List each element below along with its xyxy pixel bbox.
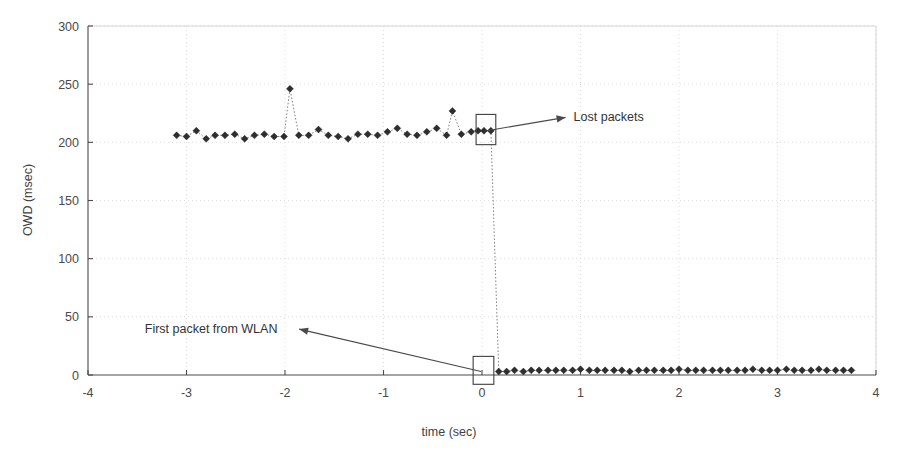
owd-vs-time-scatter-chart: 050100150200250300-4-3-2-101234 Lost pac… xyxy=(0,0,899,458)
y-axis-tick-label: 300 xyxy=(58,20,79,34)
x-axis-tick-label: 2 xyxy=(676,386,683,400)
x-axis-tick-label: 1 xyxy=(577,386,584,400)
x-axis-tick-label: 4 xyxy=(873,386,880,400)
y-axis-tick-label: 100 xyxy=(58,252,79,266)
x-axis-tick-label: 3 xyxy=(774,386,781,400)
y-axis-tick-label: 50 xyxy=(65,310,79,324)
y-axis-tick-label: 250 xyxy=(58,78,79,92)
annotation-label: First packet from WLAN xyxy=(145,322,278,336)
x-axis-tick-label: -3 xyxy=(181,386,192,400)
y-axis-title: OWD (msec) xyxy=(21,164,35,236)
x-axis-title: time (sec) xyxy=(422,425,477,439)
chart-figure: 050100150200250300-4-3-2-101234 Lost pac… xyxy=(0,0,899,458)
y-axis-tick-label: 150 xyxy=(58,194,79,208)
x-axis-tick-label: 0 xyxy=(479,386,486,400)
x-axis-tick-label: -2 xyxy=(279,386,290,400)
y-axis-tick-label: 0 xyxy=(72,369,79,383)
x-axis-tick-label: -4 xyxy=(82,386,93,400)
y-axis-tick-label: 200 xyxy=(58,136,79,150)
chart-background xyxy=(0,0,899,458)
annotation-label: Lost packets xyxy=(574,110,644,124)
x-axis-tick-label: -1 xyxy=(378,386,389,400)
